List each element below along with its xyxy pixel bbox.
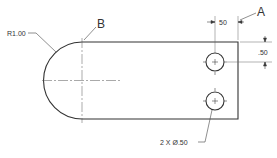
leader-b bbox=[84, 27, 96, 40]
dim-vertical-label: .50 bbox=[258, 49, 268, 56]
leader-hole-callout bbox=[198, 110, 212, 142]
leader-radius bbox=[28, 33, 56, 52]
label-a: A bbox=[257, 5, 265, 19]
technical-drawing: 50 .50 A B R1.00 2 X Ø.50 bbox=[0, 0, 277, 158]
label-b: B bbox=[97, 17, 105, 31]
label-hole-callout: 2 X Ø.50 bbox=[160, 139, 188, 146]
label-radius: R1.00 bbox=[7, 30, 26, 37]
dim-horizontal-label: 50 bbox=[219, 19, 227, 26]
hole-top-centermark bbox=[203, 59, 227, 75]
hole-bottom-centermark bbox=[203, 88, 227, 104]
leader-a bbox=[240, 13, 256, 20]
